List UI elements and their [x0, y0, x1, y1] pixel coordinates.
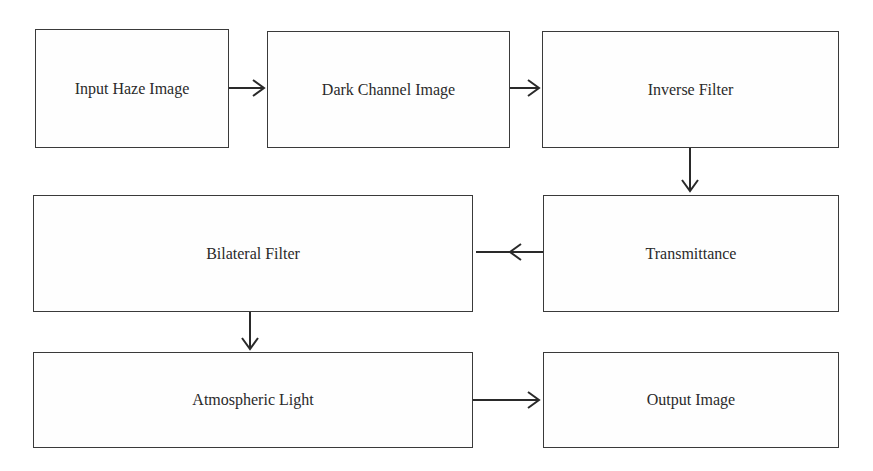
edge-arrow-transmittance-to-bilateral [476, 244, 543, 260]
edge-arrow-atmospheric-to-output [473, 392, 539, 408]
edge-arrow-dark-to-inverse [510, 80, 539, 96]
edge-arrow-inverse-to-transmittance [682, 148, 698, 191]
edge-arrow-input-to-dark [229, 80, 264, 96]
edges-layer [0, 0, 873, 471]
edge-arrow-bilateral-to-atmospheric [242, 312, 258, 349]
